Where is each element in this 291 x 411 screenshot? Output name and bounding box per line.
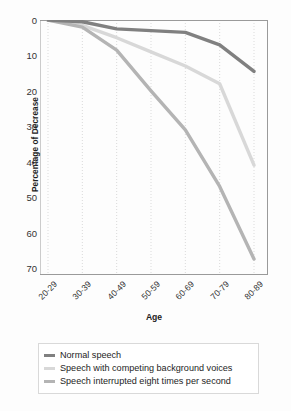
chart-legend: Normal speech Speech with competing back… bbox=[38, 343, 259, 394]
line-chart: Percentage of Decrease 010203040506070 2… bbox=[14, 12, 276, 332]
y-tick-label: 0 bbox=[32, 15, 37, 26]
legend-swatch-icon bbox=[44, 354, 55, 357]
legend-swatch-icon bbox=[44, 380, 55, 383]
x-tick-label: 80-89 bbox=[242, 279, 265, 302]
y-tick-label: 20 bbox=[26, 85, 37, 96]
data-series-group bbox=[48, 20, 254, 259]
plot-svg bbox=[40, 20, 268, 275]
x-axis-title: Age bbox=[40, 312, 268, 322]
legend-label: Speech interrupted eight times per secon… bbox=[60, 376, 231, 387]
y-tick-label: 40 bbox=[26, 156, 37, 167]
x-tick-label: 60-69 bbox=[174, 279, 197, 302]
legend-item[interactable]: Speech with competing background voices bbox=[44, 362, 252, 375]
x-tick-label: 70-79 bbox=[208, 279, 231, 302]
series-line bbox=[48, 20, 254, 259]
y-tick-label: 10 bbox=[26, 50, 37, 61]
y-tick-label: 30 bbox=[26, 121, 37, 132]
legend-item[interactable]: Normal speech bbox=[44, 349, 252, 362]
axis-lines-group bbox=[40, 20, 268, 275]
x-tick-label: 50-59 bbox=[139, 279, 162, 302]
y-axis-title: Percentage of Decrease bbox=[31, 90, 40, 200]
legend-item[interactable]: Speech interrupted eight times per secon… bbox=[44, 375, 252, 388]
y-tick-label: 60 bbox=[26, 227, 37, 238]
x-tick-label: 30-39 bbox=[71, 279, 94, 302]
x-tick-label: 40-49 bbox=[105, 279, 128, 302]
y-tick-label: 70 bbox=[26, 262, 37, 273]
figure-canvas: Percentage of Decrease 010203040506070 2… bbox=[0, 0, 291, 411]
plot-area: 010203040506070 20-2930-3940-4950-5960-6… bbox=[40, 20, 268, 275]
legend-swatch-icon bbox=[44, 367, 55, 370]
legend-label: Normal speech bbox=[60, 350, 121, 361]
legend-label: Speech with competing background voices bbox=[60, 363, 232, 374]
gridlines-group bbox=[48, 20, 254, 275]
x-tick-label: 20-29 bbox=[36, 279, 59, 302]
y-tick-label: 50 bbox=[26, 192, 37, 203]
